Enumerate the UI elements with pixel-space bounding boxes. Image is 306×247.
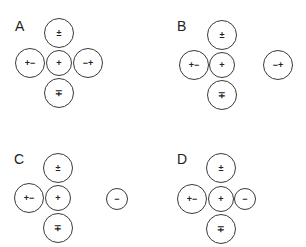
circle-left: +− bbox=[15, 48, 45, 78]
circle-bottom: ∓ bbox=[206, 214, 236, 244]
charge-symbol: +− bbox=[187, 194, 198, 203]
panel-label-a: A bbox=[15, 19, 24, 33]
charge-symbol: − bbox=[114, 194, 119, 203]
charge-symbol: + bbox=[219, 60, 224, 69]
charge-symbol: − bbox=[242, 194, 247, 203]
charge-symbol: ± bbox=[220, 30, 225, 39]
circle-center: + bbox=[208, 186, 234, 212]
circle-left: +− bbox=[14, 183, 44, 213]
panel-label-b: B bbox=[177, 19, 186, 33]
circle-top: ± bbox=[206, 153, 236, 183]
circle-top: ± bbox=[207, 20, 237, 50]
charge-symbol: +− bbox=[25, 58, 36, 67]
charge-symbol: +− bbox=[24, 193, 35, 202]
panel-label-d: D bbox=[177, 152, 187, 166]
circle-left: +− bbox=[177, 184, 207, 214]
circle-top: ± bbox=[43, 153, 73, 183]
charge-symbol: ∓ bbox=[217, 224, 225, 233]
circle-right: −+ bbox=[73, 48, 103, 78]
charge-symbol: ∓ bbox=[54, 223, 62, 232]
circle-left: +− bbox=[179, 50, 209, 80]
charge-symbol: + bbox=[55, 193, 60, 202]
circle-bottom: ∓ bbox=[43, 213, 73, 243]
circle-center: + bbox=[46, 50, 72, 76]
panel-label-c: C bbox=[14, 152, 24, 166]
charge-symbol: ∓ bbox=[55, 88, 63, 97]
charge-symbol: −+ bbox=[83, 58, 94, 67]
charge-symbol: ± bbox=[219, 163, 224, 172]
circle-bottom: ∓ bbox=[207, 80, 237, 110]
circle-right-small: − bbox=[234, 188, 256, 210]
circle-top: ± bbox=[44, 18, 74, 48]
circle-center: + bbox=[45, 185, 71, 211]
circle-right: −+ bbox=[263, 50, 293, 80]
circle-center: + bbox=[209, 52, 235, 78]
charge-symbol: ∓ bbox=[218, 90, 226, 99]
charge-symbol: −+ bbox=[273, 60, 284, 69]
circle-right-small: − bbox=[106, 188, 128, 210]
charge-symbol: + bbox=[218, 194, 223, 203]
charge-symbol: ± bbox=[57, 28, 62, 37]
charge-symbol: ± bbox=[56, 163, 61, 172]
circle-bottom: ∓ bbox=[44, 78, 74, 108]
charge-symbol: + bbox=[56, 58, 61, 67]
charge-symbol: +− bbox=[189, 60, 200, 69]
